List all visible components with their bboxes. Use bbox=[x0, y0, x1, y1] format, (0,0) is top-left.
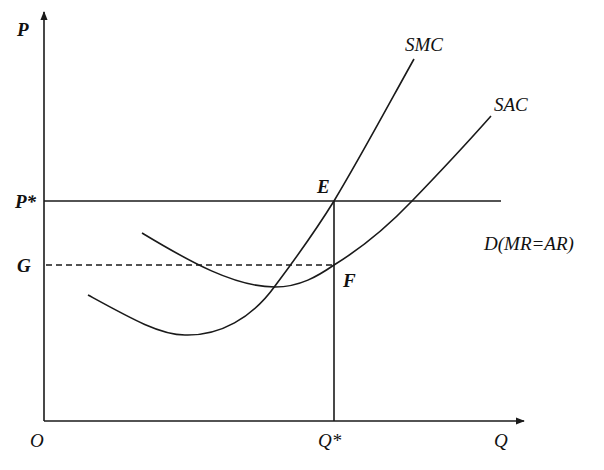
x-axis-label: Q bbox=[494, 430, 508, 451]
smc-curve bbox=[88, 59, 414, 335]
demand-label: D(MR=AR) bbox=[483, 233, 574, 255]
point-e-label: E bbox=[316, 176, 330, 197]
p-star-label: P* bbox=[14, 191, 37, 212]
g-label: G bbox=[17, 255, 31, 276]
origin-label: O bbox=[30, 430, 44, 451]
sac-label: SAC bbox=[494, 94, 528, 115]
y-axis-label: P bbox=[16, 19, 29, 40]
smc-label: SMC bbox=[405, 34, 443, 55]
point-f-label: F bbox=[342, 270, 356, 291]
q-star-label: Q* bbox=[318, 430, 342, 451]
cost-curves-diagram: P Q O P* G Q* SMC SAC D(MR=AR) E F bbox=[0, 0, 604, 470]
